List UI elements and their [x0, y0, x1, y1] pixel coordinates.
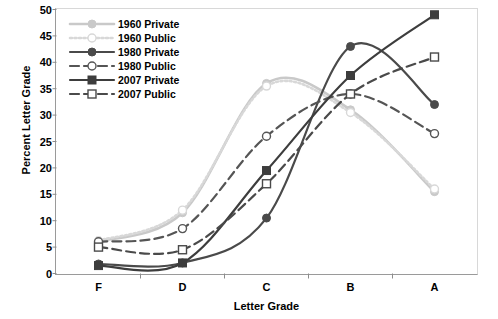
- legend-marker: [88, 20, 96, 28]
- legend-key-swatch: [68, 31, 116, 45]
- legend-label: 1960 Public: [118, 31, 176, 45]
- legend-key-swatch: [68, 45, 116, 59]
- legend-item-1960-public[interactable]: 1960 Public: [68, 31, 179, 45]
- legend-label: 2007 Private: [118, 73, 179, 87]
- data-point-F: [95, 262, 103, 270]
- legend-marker: [88, 62, 96, 70]
- x-tick-C: C: [247, 281, 287, 293]
- legend-key-swatch: [68, 73, 116, 87]
- data-point-F: [95, 243, 103, 251]
- data-point-A: [431, 185, 439, 193]
- legend-item-1980-private[interactable]: 1980 Private: [68, 45, 179, 59]
- data-point-B: [347, 72, 355, 80]
- legend-marker: [88, 90, 96, 98]
- data-point-A: [431, 101, 439, 109]
- data-point-A: [431, 53, 439, 61]
- legend-marker: [88, 34, 96, 42]
- legend-label: 1960 Private: [118, 17, 179, 31]
- data-point-C: [263, 214, 271, 222]
- chart-figure: 05101520253035404550 FDCBA Percent Lette…: [0, 0, 498, 319]
- data-point-C: [263, 167, 271, 175]
- chart-legend: 1960 Private1960 Public1980 Private1980 …: [68, 17, 179, 101]
- legend-key-swatch: [68, 59, 116, 73]
- data-point-D: [179, 246, 187, 254]
- x-axis-title: Letter Grade: [55, 300, 478, 312]
- legend-item-2007-public[interactable]: 2007 Public: [68, 87, 179, 101]
- legend-key-swatch: [68, 17, 116, 31]
- data-point-C: [263, 132, 271, 140]
- legend-item-2007-private[interactable]: 2007 Private: [68, 73, 179, 87]
- data-point-A: [431, 130, 439, 138]
- data-point-D: [179, 225, 187, 233]
- data-point-B: [347, 90, 355, 98]
- data-point-C: [263, 82, 271, 90]
- data-point-B: [347, 108, 355, 116]
- x-tick-D: D: [163, 281, 203, 293]
- data-point-D: [179, 259, 187, 267]
- legend-item-1980-public[interactable]: 1980 Public: [68, 59, 179, 73]
- legend-key-swatch: [68, 87, 116, 101]
- legend-marker: [88, 76, 96, 84]
- y-axis-title: Percent Letter Grade: [20, 50, 32, 190]
- x-tick-B: B: [331, 281, 371, 293]
- data-point-C: [263, 180, 271, 188]
- data-point-B: [347, 42, 355, 50]
- legend-marker: [88, 48, 96, 56]
- legend-label: 1980 Public: [118, 59, 176, 73]
- data-point-A: [431, 11, 439, 19]
- legend-label: 2007 Public: [118, 87, 176, 101]
- legend-label: 1980 Private: [118, 45, 179, 59]
- x-tick-F: F: [79, 281, 119, 293]
- x-axis-tick-labels: FDCBA: [55, 281, 478, 297]
- x-tick-A: A: [415, 281, 455, 293]
- legend-item-1960-private[interactable]: 1960 Private: [68, 17, 179, 31]
- data-point-D: [179, 206, 187, 214]
